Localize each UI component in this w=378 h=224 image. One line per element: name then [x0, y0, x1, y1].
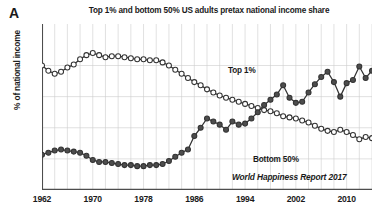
x-axis-tick-1970: 1970 [84, 194, 102, 204]
x-axis-tick-2010: 2010 [337, 194, 355, 204]
x-axis-tick-1986: 1986 [185, 194, 203, 204]
x-axis-tick-2002: 2002 [287, 194, 305, 204]
chart-title: Top 1% and bottom 50% US adults pretax n… [44, 6, 374, 15]
x-axis-tick-1994: 1994 [236, 194, 254, 204]
chart-figure: A Top 1% and bottom 50% US adults pretax… [0, 0, 378, 224]
series-label-top-1: Top 1% [228, 66, 256, 75]
y-axis-label: % of national income [12, 15, 22, 125]
x-axis-tick-1978: 1978 [134, 194, 152, 204]
x-axis-tick-1962: 1962 [33, 194, 51, 204]
grid-lines [42, 24, 372, 190]
chart-plot-svg [42, 24, 372, 190]
plot-area [42, 24, 372, 190]
series-label-bottom-50: Bottom 50% [253, 155, 299, 164]
x-axis-tick-labels: 1962197019781986199420022010 [0, 194, 378, 210]
source-credit: World Happiness Report 2017 [232, 172, 346, 182]
